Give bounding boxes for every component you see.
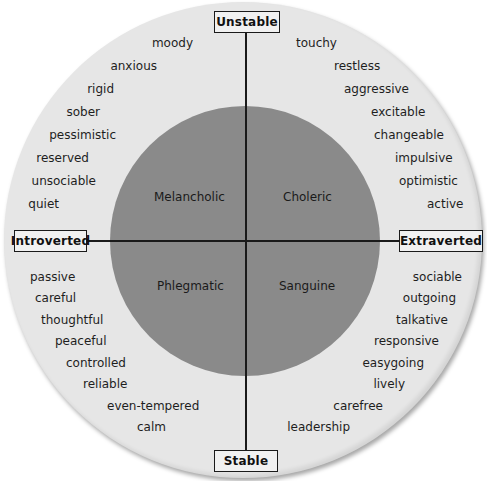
axis-label-introverted: Introverted xyxy=(14,230,87,252)
trait-word: sober xyxy=(66,105,100,119)
trait-word: reliable xyxy=(83,377,127,391)
trait-word: calm xyxy=(137,420,166,434)
trait-word: quiet xyxy=(28,197,59,211)
trait-word: impulsive xyxy=(395,151,453,165)
trait-word: aggressive xyxy=(344,82,409,96)
trait-word: carefree xyxy=(333,399,383,413)
axis-label-extraverted: Extraverted xyxy=(399,230,483,252)
trait-word: thoughtful xyxy=(41,313,103,327)
trait-word: active xyxy=(427,197,463,211)
trait-word: even-tempered xyxy=(107,399,199,413)
trait-word: touchy xyxy=(296,36,337,50)
trait-word: changeable xyxy=(374,128,444,142)
trait-word: optimistic xyxy=(399,174,458,188)
trait-word: careful xyxy=(35,291,76,305)
temperament-sanguine: Sanguine xyxy=(279,279,335,293)
trait-word: talkative xyxy=(396,313,448,327)
trait-word: leadership xyxy=(287,420,350,434)
trait-word: outgoing xyxy=(403,291,456,305)
trait-word: controlled xyxy=(66,356,126,370)
trait-word: lively xyxy=(373,377,405,391)
temperament-melancholic: Melancholic xyxy=(154,190,225,204)
trait-word: moody xyxy=(152,36,193,50)
trait-word: responsive xyxy=(374,334,439,348)
axis-label-stable: Stable xyxy=(214,450,278,472)
axis-label-unstable: Unstable xyxy=(214,11,280,33)
trait-word: peaceful xyxy=(55,334,107,348)
temperament-choleric: Choleric xyxy=(283,190,332,204)
trait-word: excitable xyxy=(371,105,425,119)
temperament-phlegmatic: Phlegmatic xyxy=(157,279,224,293)
trait-word: reserved xyxy=(36,151,89,165)
introversion-extraversion-axis-line xyxy=(86,240,399,242)
trait-word: anxious xyxy=(110,59,157,73)
trait-word: unsociable xyxy=(32,174,96,188)
trait-word: rigid xyxy=(87,82,114,96)
trait-word: restless xyxy=(334,59,380,73)
trait-word: sociable xyxy=(413,270,462,284)
trait-word: pessimistic xyxy=(49,128,116,142)
trait-word: passive xyxy=(30,270,75,284)
trait-word: easygoing xyxy=(362,356,424,370)
